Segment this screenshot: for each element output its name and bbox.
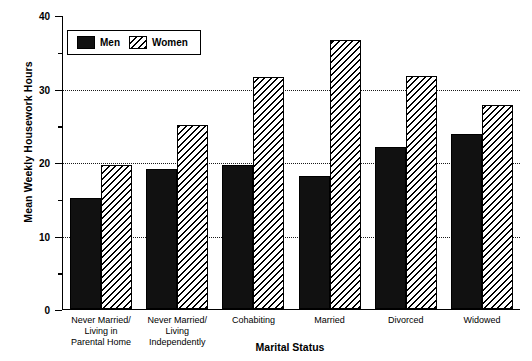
x-category-label-line: Never Married/ (140, 315, 214, 326)
bar-women (330, 40, 361, 308)
bar-group (139, 17, 215, 309)
bar-women (406, 76, 437, 308)
bar-group (444, 17, 520, 309)
legend-label-men: Men (100, 37, 120, 48)
x-category-label-line: Widowed (445, 315, 519, 326)
y-tick-major (55, 163, 62, 164)
plot-area: 010203040 (62, 16, 520, 310)
y-tick-label: 40 (20, 11, 50, 22)
bar-men (222, 165, 253, 308)
y-tick-label: 0 (20, 305, 50, 316)
x-category-label-line: Married (293, 315, 367, 326)
x-category-label-line: Living (140, 326, 214, 337)
x-category-label-line: Divorced (369, 315, 443, 326)
y-tick-minor (58, 53, 63, 54)
legend-item-men: Men (77, 36, 120, 49)
x-category-label-line: Living in (64, 326, 138, 337)
y-tick-minor (58, 273, 63, 274)
x-category-label-line: Never Married/ (64, 315, 138, 326)
y-tick-label: 10 (20, 231, 50, 242)
hatched-swatch-icon (129, 36, 147, 49)
y-tick-label: 20 (20, 158, 50, 169)
y-tick-major (55, 310, 62, 311)
bar-men (451, 134, 482, 309)
x-axis-line (62, 309, 520, 310)
bar-men (146, 169, 177, 309)
y-tick-major (55, 90, 62, 91)
bar-group (215, 17, 291, 309)
legend-item-women: Women (129, 36, 188, 49)
bar-women (101, 165, 132, 308)
y-axis-title: Mean Weekly Housework Hours (22, 42, 34, 242)
x-category-label-line: Cohabiting (216, 315, 290, 326)
y-tick-minor (58, 126, 63, 127)
solid-black-swatch-icon (77, 36, 95, 49)
bar-women (253, 77, 284, 309)
x-axis-title: Marital Status (0, 341, 532, 353)
y-tick-label: 30 (20, 84, 50, 95)
bar-group (63, 17, 139, 309)
bar-women (177, 125, 208, 309)
y-tick-major (55, 16, 62, 17)
bar-men (70, 198, 101, 308)
bar-men (299, 176, 330, 308)
bar-group (292, 17, 368, 309)
legend-label-women: Women (152, 37, 188, 48)
bar-group (368, 17, 444, 309)
chart-legend: Men Women (67, 30, 201, 55)
bar-groups (63, 17, 520, 309)
housework-hours-bar-chart: Mean Weekly Housework Hours 010203040 Ne… (0, 0, 532, 361)
bar-women (482, 105, 513, 309)
y-tick-major (55, 237, 62, 238)
bar-men (375, 147, 406, 309)
y-tick-minor (58, 200, 63, 201)
